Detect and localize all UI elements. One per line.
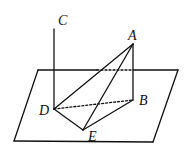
label-E: E — [87, 129, 97, 144]
plane-edge-bottom — [14, 141, 153, 142]
segment-AE — [83, 44, 133, 130]
label-D: D — [38, 103, 49, 118]
segment-AD — [54, 44, 133, 109]
geometry-diagram: C A D B E — [0, 0, 188, 155]
label-A: A — [127, 28, 137, 43]
plane-edge-left — [14, 70, 38, 141]
segment-DE — [54, 109, 83, 130]
label-C: C — [58, 13, 68, 28]
plane-edge-right — [153, 70, 178, 142]
label-B: B — [139, 93, 148, 108]
